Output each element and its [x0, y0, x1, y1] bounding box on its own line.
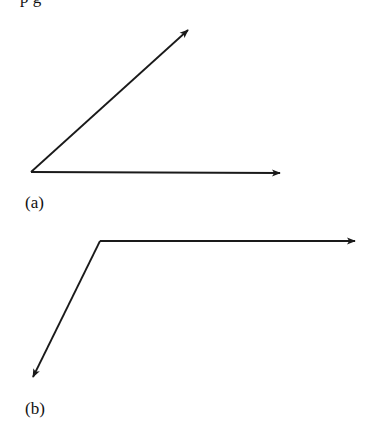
figure-a-label: (a) [25, 193, 44, 213]
figure-a [31, 30, 280, 173]
figure-b-label: (b) [25, 399, 45, 419]
vector-diagram [0, 0, 369, 429]
figure-b [33, 241, 355, 377]
vector-a-horizontal-arrow [31, 172, 280, 173]
vector-a-diagonal-arrow [31, 30, 188, 172]
vector-b-diagonal-arrow [33, 241, 100, 377]
